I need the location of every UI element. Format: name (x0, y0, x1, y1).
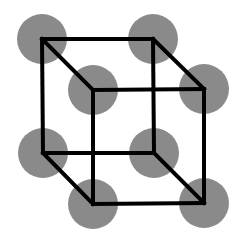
edge-back-top-left-to-back-bottom-left (42, 39, 43, 153)
cube-edges-layer (42, 39, 204, 204)
edge-back-top-right-to-back-bottom-right (153, 39, 154, 153)
edge-back-top-right-to-front-top-right (153, 39, 204, 89)
edge-front-bottom-left-to-front-bottom-right (93, 203, 204, 204)
edge-back-bottom-right-to-front-bottom-right (154, 153, 204, 203)
edge-front-top-left-to-front-top-right (93, 89, 204, 90)
edge-back-bottom-left-to-front-bottom-left (43, 153, 93, 204)
edge-back-top-left-to-front-top-left (42, 39, 93, 90)
cubic-lattice-diagram (0, 0, 244, 245)
